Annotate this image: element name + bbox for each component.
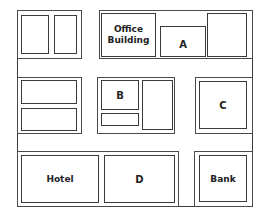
- building-office[interactable]: Office Building: [101, 13, 156, 57]
- building-top-right[interactable]: [207, 13, 247, 57]
- building-bank[interactable]: Bank: [199, 155, 247, 202]
- building-c[interactable]: C: [199, 81, 247, 129]
- building-mid-small[interactable]: [101, 113, 139, 126]
- bank-label: Bank: [200, 173, 246, 184]
- building-mid-left-2[interactable]: [21, 108, 77, 131]
- city-map: Office Building A B C Hotel D Bank: [0, 0, 264, 221]
- building-b-label: B: [102, 90, 138, 101]
- hotel-label: Hotel: [22, 174, 98, 185]
- building-c-label: C: [200, 100, 246, 111]
- building-hotel[interactable]: Hotel: [21, 155, 99, 203]
- building-d-label: D: [105, 174, 174, 185]
- building-a-label: A: [161, 39, 205, 50]
- office-building-label: Office Building: [102, 24, 155, 46]
- building-a[interactable]: A: [160, 26, 206, 57]
- building-mid-left-1[interactable]: [21, 80, 77, 104]
- building-mid-right-tall[interactable]: [142, 80, 173, 130]
- building-b[interactable]: B: [101, 80, 139, 110]
- building-d[interactable]: D: [104, 155, 175, 203]
- building-top-left-2[interactable]: [54, 15, 77, 54]
- building-top-left-1[interactable]: [21, 15, 49, 54]
